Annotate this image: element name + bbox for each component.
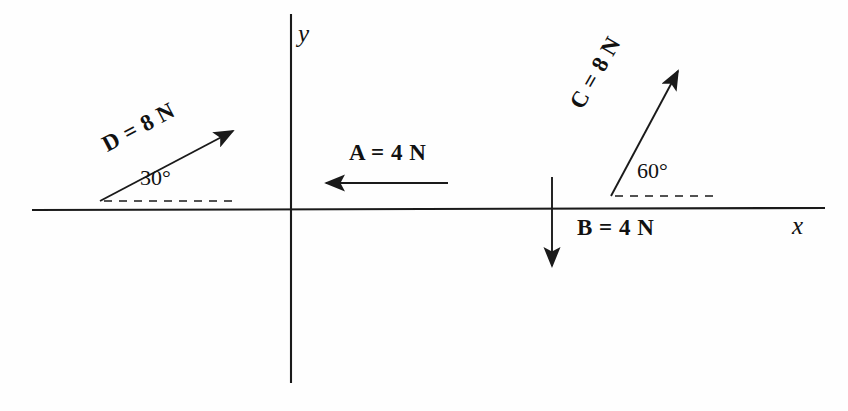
x-axis-label: x xyxy=(792,212,803,240)
diagram-canvas xyxy=(0,0,848,411)
force-vector-diagram: A = 4 N B = 4 N C = 8 N D = 8 N 60° 30° … xyxy=(0,0,848,411)
x-axis xyxy=(32,208,825,210)
angle-label-D: 30° xyxy=(140,165,171,191)
y-axis-label: y xyxy=(298,20,309,48)
vector-label-B: B = 4 N xyxy=(577,215,654,241)
angle-label-C: 60° xyxy=(637,158,668,184)
vector-label-A: A = 4 N xyxy=(349,140,426,166)
